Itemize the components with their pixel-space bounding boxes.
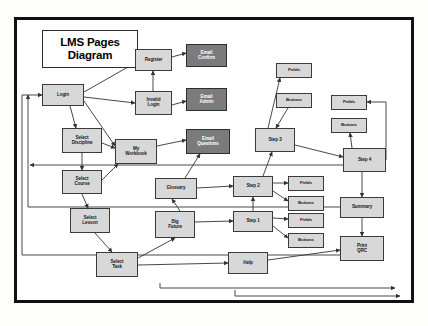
node-label-email_questions: EmailQuestions xyxy=(187,137,229,147)
node-label-buttons_s4: Buttons xyxy=(332,123,366,128)
diagram-title-line1: LMS Pages xyxy=(60,36,120,48)
node-label-help: Help xyxy=(229,261,267,266)
node-label-register: Register xyxy=(136,58,171,63)
node-select_lesson[interactable]: SelectLesson xyxy=(70,208,110,233)
node-label-email_admin: EmailAdmin xyxy=(187,95,226,105)
diagram-title: LMS Pages Diagram xyxy=(42,30,138,68)
node-email_admin[interactable]: EmailAdmin xyxy=(186,88,227,111)
node-label-select_discipline: SelectDiscipline xyxy=(63,136,101,146)
node-label-fields_s2: Fields xyxy=(289,181,323,186)
node-login[interactable]: Login xyxy=(42,84,84,106)
node-label-select_lesson: SelectLesson xyxy=(71,216,109,226)
node-buttons_s1[interactable]: Buttons xyxy=(288,233,324,248)
node-step3[interactable]: Step 3 xyxy=(255,128,295,152)
node-label-fields_s1: Fields xyxy=(289,218,323,223)
node-buttons_s2[interactable]: Buttons xyxy=(288,196,324,211)
node-print_qrc[interactable]: PrintQRC xyxy=(340,236,384,261)
node-label-buttons_s2: Buttons xyxy=(289,201,323,206)
node-my_workbook[interactable]: MyWorkbook xyxy=(115,139,157,164)
node-label-fields_s3: Fields xyxy=(277,68,311,73)
node-fields_s1[interactable]: Fields xyxy=(288,213,324,228)
node-glossary[interactable]: Glossary xyxy=(155,178,197,199)
node-invalid_login[interactable]: InvalidLogin xyxy=(135,91,172,115)
node-label-select_course: SelectCourse xyxy=(63,177,101,187)
node-label-step4: Step 4 xyxy=(344,158,385,163)
node-label-glossary: Glossary xyxy=(156,186,196,191)
node-email_confirm[interactable]: EmailConfirm xyxy=(186,44,227,67)
node-label-step3: Step 3 xyxy=(256,138,294,143)
node-select_discipline[interactable]: SelectDiscipline xyxy=(62,128,102,153)
node-label-select_task: SelectTask xyxy=(97,260,137,270)
node-email_questions[interactable]: EmailQuestions xyxy=(186,129,230,154)
node-buttons_s4[interactable]: Buttons xyxy=(331,118,367,133)
node-fields_s3[interactable]: Fields xyxy=(276,63,312,78)
node-label-my_workbook: MyWorkbook xyxy=(116,147,156,157)
node-label-buttons_s3: Buttons xyxy=(277,98,311,103)
node-buttons_s3[interactable]: Buttons xyxy=(276,93,312,108)
diagram-canvas: LMS Pages Diagram LoginRegisterInvalidLo… xyxy=(0,0,428,326)
node-big_picture[interactable]: BigFuture xyxy=(155,211,195,238)
node-register[interactable]: Register xyxy=(135,49,172,71)
node-label-email_confirm: EmailConfirm xyxy=(187,51,226,61)
diagram-title-line2: Diagram xyxy=(68,49,113,61)
node-select_task[interactable]: SelectTask xyxy=(96,252,138,277)
node-label-big_picture: BigFuture xyxy=(156,220,194,230)
node-step2[interactable]: Step 2 xyxy=(233,176,273,197)
node-summary[interactable]: Summary xyxy=(340,197,384,218)
node-help[interactable]: Help xyxy=(228,252,268,274)
node-label-invalid_login: InvalidLogin xyxy=(136,98,171,108)
node-select_course[interactable]: SelectCourse xyxy=(62,170,102,194)
node-fields_s4[interactable]: Fields xyxy=(331,95,367,110)
node-label-summary: Summary xyxy=(341,205,383,210)
node-step4[interactable]: Step 4 xyxy=(343,148,386,172)
node-label-buttons_s1: Buttons xyxy=(289,238,323,243)
node-label-login: Login xyxy=(43,93,83,98)
node-fields_s2[interactable]: Fields xyxy=(288,176,324,191)
node-step1[interactable]: Step 1 xyxy=(233,211,273,232)
node-label-step1: Step 1 xyxy=(234,219,272,224)
node-label-step2: Step 2 xyxy=(234,184,272,189)
node-label-fields_s4: Fields xyxy=(332,100,366,105)
node-label-print_qrc: PrintQRC xyxy=(341,244,383,254)
